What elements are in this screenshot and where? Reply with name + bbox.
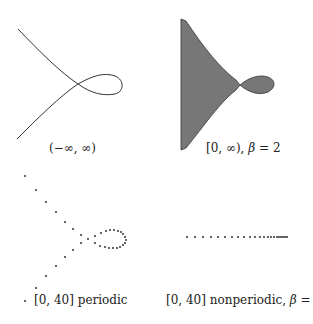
panel-nonperiodic-samples: [0, 40] nonperiodic, β = 2 <box>156 162 313 324</box>
panel-full-curve: (−∞, ∞) <box>0 0 156 162</box>
sample-dots <box>186 236 288 238</box>
caption-prefix: [0, 40] nonperiodic, <box>166 293 290 307</box>
caption-beta: β <box>290 293 297 307</box>
full-curve-plot <box>0 0 156 162</box>
filled-region-plot <box>156 0 313 162</box>
caption-prefix: [0, ∞), <box>206 141 248 155</box>
curve-path <box>17 29 122 139</box>
sample-dots <box>24 175 127 302</box>
caption-full-curve: (−∞, ∞) <box>49 141 96 155</box>
caption-nonperiodic: [0, 40] nonperiodic, β = 2 <box>166 293 313 307</box>
panel-periodic-samples: [0, 40] periodic <box>0 162 156 324</box>
filled-region <box>181 19 274 150</box>
caption-suffix: = 2 <box>297 293 313 307</box>
caption-halfline-filled: [0, ∞), β = 2 <box>206 141 281 155</box>
caption-suffix: = 2 <box>255 141 280 155</box>
panel-halfline-filled: [0, ∞), β = 2 <box>156 0 313 162</box>
caption-periodic: [0, 40] periodic <box>34 293 128 307</box>
